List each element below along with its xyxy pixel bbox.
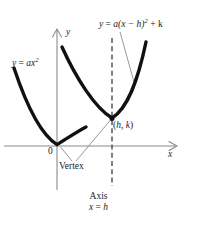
label-left-equation-coefficient: ax bbox=[26, 58, 35, 68]
label-axis-of-symmetry-line1: Axis bbox=[0, 192, 197, 202]
label-x-axis: x bbox=[168, 150, 172, 160]
label-left-equation-equals: = bbox=[16, 58, 26, 68]
label-origin: 0 bbox=[48, 147, 53, 157]
axis-equation-equals: = bbox=[93, 202, 103, 212]
label-right-equation-tail: + k bbox=[148, 19, 163, 29]
label-right-equation-equals: = bbox=[103, 19, 113, 29]
label-axis-of-symmetry: Axisx = h bbox=[0, 192, 197, 213]
label-vertex: Vertex bbox=[59, 162, 84, 172]
label-right-equation: y = a(x − h)2 + k bbox=[99, 18, 163, 30]
paren-close: ) bbox=[130, 120, 133, 130]
parabola-diagram: y = ax2 y = a(x − h)2 + k (h, k) x y 0 V… bbox=[0, 0, 197, 228]
label-right-equation-body: a(x − h) bbox=[113, 19, 144, 29]
label-left-equation-exponent: 2 bbox=[35, 56, 38, 63]
label-vertex-coordinates: (h, k) bbox=[113, 121, 133, 131]
leader-line-vertex-to-origin bbox=[61, 147, 73, 161]
label-y-axis: y bbox=[66, 28, 70, 38]
label-axis-of-symmetry-line2: x = h bbox=[0, 203, 197, 213]
leader-line-vertex-to-hk bbox=[76, 120, 111, 161]
axis-equation-rhs: h bbox=[103, 202, 108, 212]
leader-line-right-equation bbox=[120, 32, 134, 82]
curve-y-equals-ax2 bbox=[14, 68, 86, 145]
label-left-equation: y = ax2 bbox=[12, 57, 39, 69]
